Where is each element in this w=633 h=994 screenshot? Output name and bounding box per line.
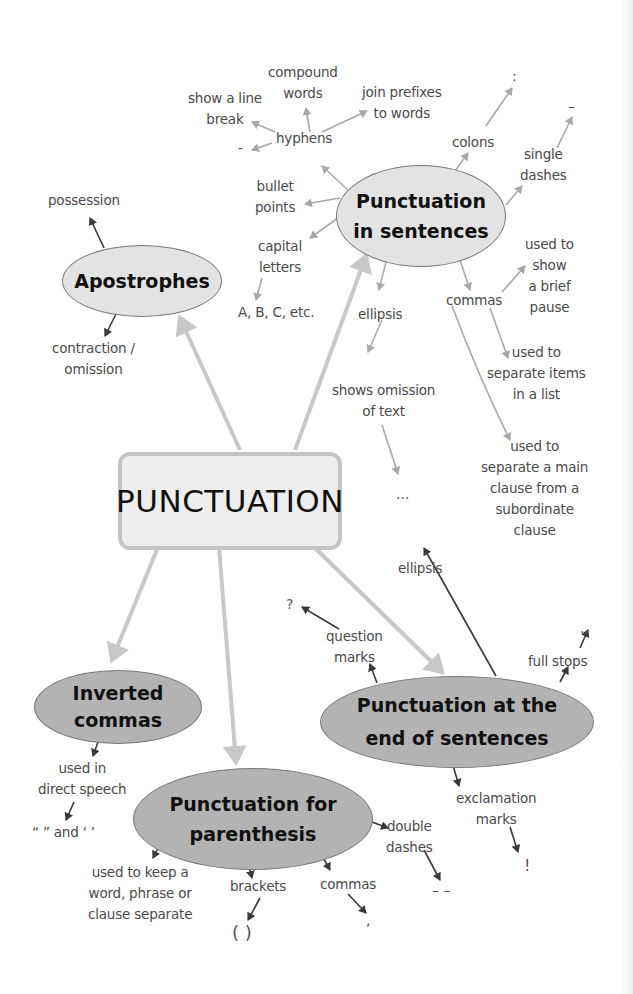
label-line: word, phrase or <box>88 883 192 904</box>
arrow-to-apostrophes <box>180 318 240 450</box>
node-label: end of sentences <box>365 722 548 755</box>
label-bullet-points: bullet points <box>255 176 295 218</box>
label-quote-marks: “ ” and ‘ ’ <box>32 822 95 843</box>
label-separate-items: used to separate items in a list <box>487 342 586 405</box>
label-line: question <box>326 626 383 647</box>
label-exclamation-marks: exclamation marks <box>456 788 536 830</box>
node-punctuation-end-of-sentences: Punctuation at the end of sentences <box>320 676 594 768</box>
label-line: show <box>525 255 574 276</box>
colon-symbol: : <box>512 68 517 84</box>
label-abc-etc: A, B, C, etc. <box>238 302 314 323</box>
label-line: in a list <box>487 384 586 405</box>
central-node-punctuation: PUNCTUATION <box>118 452 342 550</box>
question-mark-symbol: ? <box>286 596 293 612</box>
label-ellipsis-end: ellipsis <box>398 558 442 579</box>
label-line: clause separate <box>88 904 192 925</box>
label-hyphens: hyphens <box>276 128 332 149</box>
label-compound-words: compound words <box>268 62 338 104</box>
brackets-symbol: ( ) <box>232 922 252 943</box>
label-line: used to <box>481 436 588 457</box>
node-inverted-commas: Inverted commas <box>34 670 202 744</box>
label-ellipsis: ellipsis <box>358 304 402 325</box>
node-label: Punctuation for <box>169 789 336 819</box>
label-line: used to <box>525 234 574 255</box>
label-line: points <box>255 197 295 218</box>
label-line: dashes <box>520 165 567 186</box>
exclamation-symbol: ! <box>524 856 530 875</box>
label-single-dashes: single dashes <box>520 144 567 186</box>
label-line: compound <box>268 62 338 83</box>
label-line: break <box>188 109 262 130</box>
label-line: marks <box>326 647 383 668</box>
label-line: double <box>386 816 433 837</box>
label-line: pause <box>525 297 574 318</box>
label-full-stops: full stops <box>528 651 587 672</box>
double-dash-symbol: – – <box>432 882 450 898</box>
label-keep-separate: used to keep a word, phrase or clause se… <box>88 862 192 925</box>
label-line: marks <box>456 809 536 830</box>
label-shows-omission: shows omission of text <box>332 380 435 422</box>
label-line: words <box>268 83 338 104</box>
hyphen-symbol: - <box>238 140 243 156</box>
node-label: Inverted <box>73 680 164 707</box>
label-line: bullet <box>255 176 295 197</box>
label-line: clause from a <box>481 478 588 499</box>
label-line: single <box>520 144 567 165</box>
node-punctuation-in-sentences: Punctuation in sentences <box>336 165 506 267</box>
label-join-prefixes: join prefixes to words <box>362 82 442 124</box>
label-line: to words <box>362 103 442 124</box>
node-label: in sentences <box>353 216 488 246</box>
node-label: Punctuation at the <box>357 689 557 722</box>
label-line: used to <box>487 342 586 363</box>
node-label: parenthesis <box>190 819 317 849</box>
label-line: join prefixes <box>362 82 442 103</box>
node-label: Apostrophes <box>74 266 210 296</box>
label-line: omission <box>52 359 135 380</box>
label-commas: commas <box>446 290 502 311</box>
ellipsis-symbol: ... <box>396 486 409 502</box>
label-line: contraction / <box>52 338 135 359</box>
label-question-marks: question marks <box>326 626 383 668</box>
comma-symbol: , <box>366 912 370 928</box>
label-line: exclamation <box>456 788 536 809</box>
label-line: separate a main <box>481 457 588 478</box>
node-punctuation-for-parenthesis: Punctuation for parenthesis <box>133 768 373 870</box>
label-colons: colons <box>452 132 494 153</box>
label-double-dashes: double dashes <box>386 816 433 858</box>
label-brackets: brackets <box>230 876 286 897</box>
label-line: used to keep a <box>88 862 192 883</box>
label-separate-clause: used to separate a main clause from a su… <box>481 436 588 541</box>
label-line: capital <box>258 236 302 257</box>
label-direct-speech: used in direct speech <box>38 758 126 800</box>
full-stop-symbol: . <box>580 620 584 636</box>
label-line: show a line <box>188 88 262 109</box>
label-commas-parenthesis: commas <box>320 874 376 895</box>
central-title: PUNCTUATION <box>116 483 344 519</box>
label-line: shows omission <box>332 380 435 401</box>
label-line: used in <box>38 758 126 779</box>
label-line: clause <box>481 520 588 541</box>
label-line: dashes <box>386 837 433 858</box>
label-line: of text <box>332 401 435 422</box>
node-label: Punctuation <box>356 186 486 216</box>
label-line: direct speech <box>38 779 126 800</box>
node-label: commas <box>74 707 162 734</box>
label-brief-pause: used to show a brief pause <box>525 234 574 318</box>
single-dash-symbol: – <box>568 98 575 114</box>
label-line: letters <box>258 257 302 278</box>
label-show-line-break: show a line break <box>188 88 262 130</box>
label-possession: possession <box>48 190 120 211</box>
label-line: subordinate <box>481 499 588 520</box>
label-line: a brief <box>525 276 574 297</box>
arrow-to-parenthesis <box>219 547 236 762</box>
label-contraction-omission: contraction / omission <box>52 338 135 380</box>
node-apostrophes: Apostrophes <box>62 245 222 317</box>
label-line: separate items <box>487 363 586 384</box>
label-capital-letters: capital letters <box>258 236 302 278</box>
arrow-to-inverted-commas <box>112 547 158 660</box>
